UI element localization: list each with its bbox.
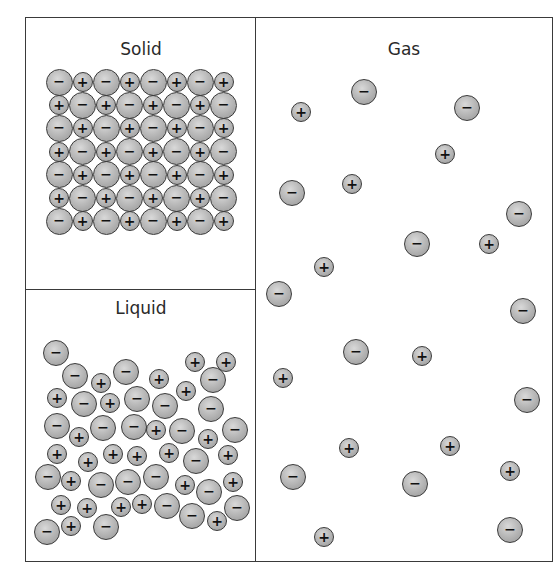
cation-particle-gas: +: [342, 174, 362, 194]
minus-icon: −: [203, 484, 215, 498]
plus-icon: +: [171, 214, 183, 228]
minus-icon: −: [100, 213, 112, 227]
plus-icon: +: [483, 237, 495, 251]
anion-particle-liquid: −: [35, 464, 61, 490]
minus-icon: −: [147, 167, 159, 181]
anion-particle-liquid: −: [88, 472, 114, 498]
plus-icon: +: [222, 448, 234, 462]
minus-icon: −: [231, 500, 243, 514]
plus-icon: +: [295, 105, 307, 119]
minus-icon: −: [53, 74, 65, 88]
plus-icon: +: [218, 214, 230, 228]
cation-particle-liquid: +: [78, 452, 98, 472]
minus-icon: −: [186, 508, 198, 522]
plus-icon: +: [318, 530, 330, 544]
cation-particle-gas: +: [435, 144, 455, 164]
cation-particle-gas: +: [291, 102, 311, 122]
minus-icon: −: [69, 368, 81, 382]
anion-particle-gas: −: [343, 339, 369, 365]
anion-particle-liquid: −: [124, 386, 150, 412]
anion-particle-liquid: −: [200, 367, 226, 393]
minus-icon: −: [41, 524, 53, 538]
plus-icon: +: [416, 349, 428, 363]
cation-particle-solid: +: [214, 211, 234, 231]
minus-icon: −: [53, 120, 65, 134]
anion-particle-solid: −: [93, 208, 120, 235]
minus-icon: −: [517, 303, 529, 317]
anion-particle-solid: −: [163, 138, 190, 165]
minus-icon: −: [120, 364, 132, 378]
cation-particle-liquid: +: [47, 444, 67, 464]
cation-particle-solid: +: [73, 118, 93, 138]
minus-icon: −: [53, 213, 65, 227]
cation-particle-liquid: +: [51, 495, 71, 515]
minus-icon: −: [205, 401, 217, 415]
plus-icon: +: [147, 144, 159, 158]
anion-particle-liquid: −: [93, 514, 119, 540]
cation-particle-liquid: +: [176, 381, 196, 401]
cation-particle-liquid: +: [100, 393, 120, 413]
plus-icon: +: [147, 191, 159, 205]
anion-particle-solid: −: [210, 185, 237, 212]
plus-icon: +: [107, 447, 119, 461]
plus-icon: +: [171, 75, 183, 89]
anion-particle-liquid: −: [224, 495, 250, 521]
plus-icon: +: [65, 474, 77, 488]
cation-particle-solid: +: [120, 211, 140, 231]
plus-icon: +: [104, 396, 116, 410]
minus-icon: −: [53, 167, 65, 181]
cation-particle-solid: +: [96, 142, 116, 162]
anion-particle-solid: −: [46, 208, 73, 235]
anion-particle-gas: −: [454, 95, 480, 121]
anion-particle-liquid: −: [169, 418, 195, 444]
minus-icon: −: [190, 453, 202, 467]
plus-icon: +: [318, 260, 330, 274]
anion-particle-liquid: −: [196, 479, 222, 505]
cation-particle-liquid: +: [185, 352, 205, 372]
minus-icon: −: [50, 345, 62, 359]
minus-icon: −: [513, 206, 525, 220]
plus-icon: +: [53, 144, 65, 158]
plus-icon: +: [95, 376, 107, 390]
anion-particle-solid: −: [140, 115, 167, 142]
minus-icon: −: [51, 418, 63, 432]
cation-particle-solid: +: [167, 72, 187, 92]
plus-icon: +: [220, 355, 232, 369]
minus-icon: −: [194, 74, 206, 88]
minus-icon: −: [100, 74, 112, 88]
anion-particle-gas: −: [404, 231, 430, 257]
minus-icon: −: [100, 120, 112, 134]
cation-particle-gas: +: [412, 346, 432, 366]
plus-icon: +: [100, 144, 112, 158]
minus-icon: −: [147, 120, 159, 134]
plus-icon: +: [77, 214, 89, 228]
gas-title: Gas: [256, 39, 552, 59]
plus-icon: +: [194, 191, 206, 205]
minus-icon: −: [147, 74, 159, 88]
cation-particle-solid: +: [190, 188, 210, 208]
cation-particle-solid: +: [214, 118, 234, 138]
minus-icon: −: [207, 372, 219, 386]
plus-icon: +: [179, 478, 191, 492]
anion-particle-gas: −: [351, 79, 377, 105]
cation-particle-gas: +: [314, 257, 334, 277]
anion-particle-liquid: −: [222, 417, 248, 443]
anion-particle-liquid: −: [115, 469, 141, 495]
anion-particle-liquid: −: [183, 448, 209, 474]
cation-particle-liquid: +: [132, 494, 152, 514]
plus-icon: +: [171, 121, 183, 135]
cation-particle-solid: +: [120, 72, 140, 92]
minus-icon: −: [229, 422, 241, 436]
plus-icon: +: [73, 430, 85, 444]
minus-icon: −: [124, 144, 136, 158]
minus-icon: −: [218, 190, 230, 204]
anion-particle-solid: −: [187, 208, 214, 235]
minus-icon: −: [171, 144, 183, 158]
minus-icon: −: [77, 97, 89, 111]
minus-icon: −: [504, 522, 516, 536]
minus-icon: −: [77, 144, 89, 158]
plus-icon: +: [504, 464, 516, 478]
anion-particle-liquid: −: [121, 414, 147, 440]
anion-particle-solid: −: [163, 92, 190, 119]
minus-icon: −: [461, 100, 473, 114]
